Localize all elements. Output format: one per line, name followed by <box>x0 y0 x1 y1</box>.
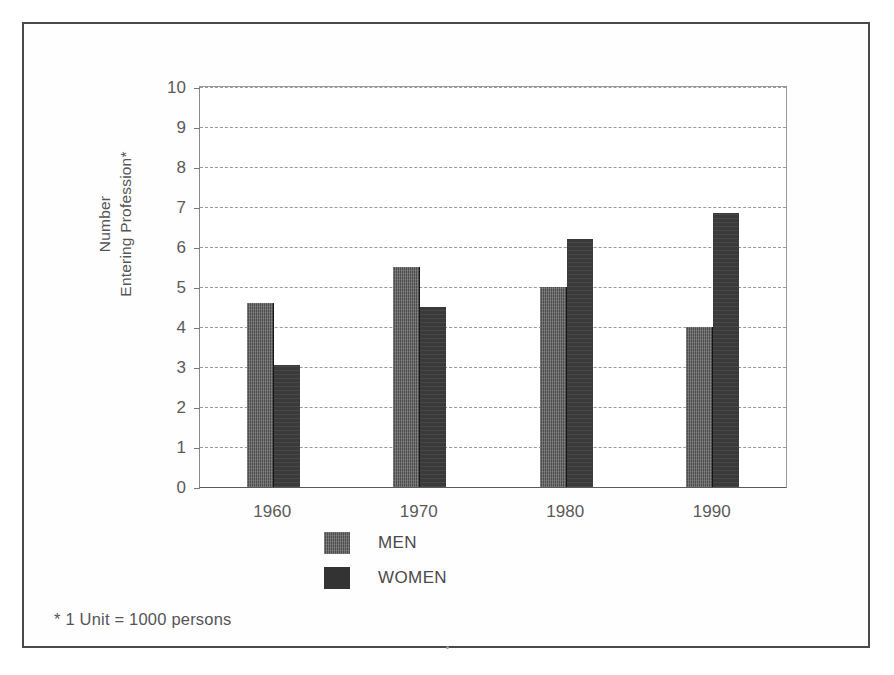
bar-group-1960 <box>200 87 347 487</box>
legend-item-women: WOMEN <box>324 567 447 589</box>
bar-women-1980 <box>567 239 593 487</box>
bar-group-1970 <box>347 87 494 487</box>
y-axis-tick-label: 4 <box>177 318 186 338</box>
x-axis-tick-label-1990: 1990 <box>693 502 731 522</box>
scan-artifact-speck <box>446 646 449 649</box>
x-axis-tick-label-1960: 1960 <box>253 502 291 522</box>
x-axis-tick-label-1980: 1980 <box>546 502 584 522</box>
y-axis-tick-label: 2 <box>177 398 186 418</box>
bars-layer <box>200 87 786 487</box>
y-axis-tick-label: 3 <box>177 358 186 378</box>
y-axis-tick-label: 7 <box>177 198 186 218</box>
y-axis-title-line-2: Entering Profession* <box>116 151 137 296</box>
legend-swatch-women-icon <box>324 567 350 589</box>
bar-women-1960 <box>274 365 300 487</box>
bar-chart-figure: Number Entering Profession* 012345678910… <box>24 24 872 650</box>
legend-label-women: WOMEN <box>378 568 447 588</box>
y-axis-title-line-1: Number <box>95 196 116 252</box>
bar-group-1990 <box>640 87 787 487</box>
bar-men-1990 <box>686 327 713 487</box>
bar-group-1980 <box>493 87 640 487</box>
chart-footnote: * 1 Unit = 1000 persons <box>54 610 232 629</box>
bar-men-1980 <box>540 287 567 487</box>
bar-women-1990 <box>713 213 739 487</box>
y-axis-tick-label: 0 <box>177 478 186 498</box>
y-axis-title: Number Entering Profession* <box>86 114 146 334</box>
y-axis-tick-label: 8 <box>177 158 186 178</box>
x-axis-tick-label-1970: 1970 <box>400 502 438 522</box>
y-axis-tick-label: 9 <box>177 118 186 138</box>
bar-men-1960 <box>247 303 274 487</box>
bar-women-1970 <box>420 307 446 487</box>
y-axis-tick-label: 1 <box>177 438 186 458</box>
y-axis-tick-label: 10 <box>167 78 186 98</box>
y-axis-tick-label: 5 <box>177 278 186 298</box>
chart-legend: MEN WOMEN <box>324 532 447 589</box>
y-axis-tick-mark <box>194 488 200 489</box>
figure-border: Number Entering Profession* 012345678910… <box>22 22 870 648</box>
y-axis-tick-label: 6 <box>177 238 186 258</box>
bar-men-1970 <box>393 267 420 487</box>
gridline-0: 0 <box>200 487 786 488</box>
legend-swatch-men-icon <box>324 532 350 554</box>
legend-item-men: MEN <box>324 532 447 554</box>
legend-label-men: MEN <box>378 533 417 553</box>
plot-area: 012345678910 <box>199 86 787 488</box>
